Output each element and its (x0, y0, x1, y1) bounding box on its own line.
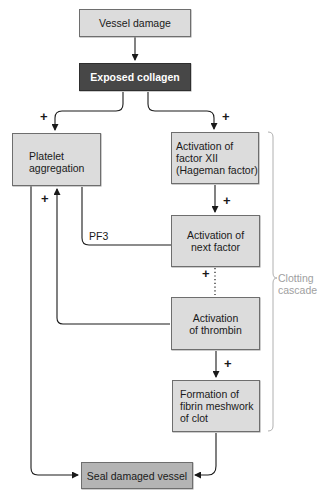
plus-sign-factor-xii: + (222, 110, 230, 123)
factor-xii-node: Activation of factor XII (Hageman factor… (171, 132, 259, 184)
platelet-aggregation-label: Platelet aggregation (29, 150, 84, 174)
arrow-collagen-to-factor-xii (148, 92, 214, 129)
seal-damaged-vessel-label: Seal damaged vessel (87, 470, 187, 482)
plus-sign-fibrin: + (224, 357, 232, 370)
plus-sign-pf3: + (202, 267, 210, 280)
factor-xii-label: Activation of factor XII (Hageman factor… (176, 140, 258, 176)
arrow-fibrin-to-seal (195, 433, 216, 475)
arrow-collagen-to-platelet (55, 92, 123, 130)
plus-sign-thrombin-feedback: + (41, 192, 49, 205)
thrombin-label: Activation of thrombin (189, 312, 242, 336)
vessel-damage-node: Vessel damage (79, 9, 191, 37)
vessel-damage-label: Vessel damage (99, 17, 171, 29)
next-factor-label: Activation of next factor (187, 229, 244, 253)
arrow-thrombin-to-platelet (57, 189, 170, 324)
plus-sign-platelet: + (40, 110, 48, 123)
clotting-cascade-label: Clotting cascade (278, 272, 317, 296)
arrow-platelet-to-seal (31, 186, 78, 475)
clotting-cascade-bracket (268, 132, 277, 431)
seal-damaged-vessel-node: Seal damaged vessel (81, 462, 193, 489)
plus-sign-next-factor: + (223, 194, 231, 207)
thrombin-node: Activation of thrombin (171, 297, 260, 350)
exposed-collagen-node: Exposed collagen (79, 63, 191, 91)
next-factor-node: Activation of next factor (171, 215, 260, 267)
fibrin-node: Formation of fibrin meshwork of clot (172, 380, 260, 432)
platelet-aggregation-node: Platelet aggregation (12, 133, 101, 186)
exposed-collagen-label: Exposed collagen (90, 71, 179, 83)
pf3-label: PF3 (89, 230, 108, 242)
fibrin-label: Formation of fibrin meshwork of clot (180, 388, 254, 424)
